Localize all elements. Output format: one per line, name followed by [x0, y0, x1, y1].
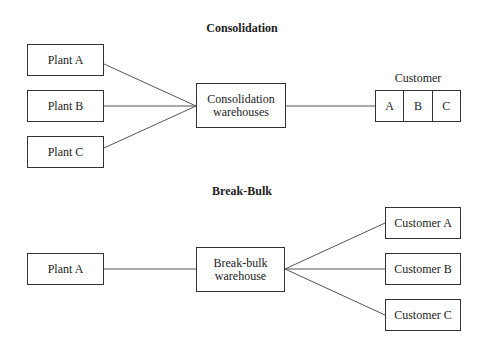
plant-c-box: Plant C [27, 136, 104, 168]
bb-warehouse-label-line1: Break-bulk [214, 257, 268, 270]
customer-b-label: Customer B [394, 263, 452, 276]
customer-cell-c: C [432, 91, 460, 121]
plant-a-label: Plant A [48, 54, 84, 67]
customer-box: A B C [375, 90, 461, 122]
bb-warehouse-label-line2: warehouse [215, 270, 266, 283]
bb-plant-a-box: Plant A [27, 253, 104, 285]
customer-b-box: Customer B [385, 253, 461, 285]
customer-c-box: Customer C [385, 299, 461, 331]
warehouse-label-line2: warehouses [213, 106, 269, 119]
customer-cell-a: A [376, 91, 403, 121]
warehouse-label-line1: Consolidation [207, 93, 274, 106]
plant-a-box: Plant A [27, 44, 104, 76]
plant-c-label: Plant C [48, 146, 84, 159]
consolidation-warehouse-box: Consolidation warehouses [196, 83, 286, 128]
break-bulk-warehouse-box: Break-bulk warehouse [196, 247, 285, 292]
plant-b-box: Plant B [27, 90, 104, 122]
bb-plant-a-label: Plant A [48, 263, 84, 276]
break-bulk-title: Break-Bulk [192, 184, 292, 199]
customer-a-label: Customer A [394, 217, 452, 230]
customer-c-label: Customer C [394, 309, 452, 322]
customer-label: Customer [375, 71, 461, 86]
customer-a-box: Customer A [385, 207, 461, 239]
plant-b-label: Plant B [48, 100, 84, 113]
customer-cell-b: B [403, 91, 431, 121]
consolidation-title: Consolidation [192, 21, 292, 36]
